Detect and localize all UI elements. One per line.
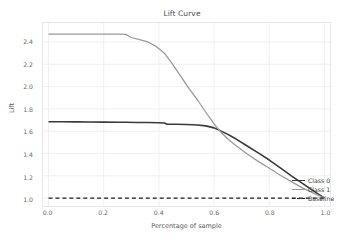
legend-swatch-icon — [292, 180, 305, 181]
series-line-class-0 — [49, 122, 325, 198]
x-axis-tick-labels: 0.00.20.40.60.81.0 — [42, 209, 331, 221]
data-series-layer — [43, 23, 330, 206]
y-tick-label: 1.2 — [23, 173, 33, 180]
legend-item-class-1[interactable]: Class 1 — [292, 185, 362, 194]
legend-label: Class 1 — [308, 185, 330, 194]
y-tick-label: 2.4 — [23, 38, 33, 45]
x-tick-label: 0.4 — [154, 209, 164, 216]
legend-swatch-icon — [292, 198, 305, 199]
legend-label: Baseline — [308, 194, 334, 203]
y-tick-label: 1.8 — [23, 105, 33, 112]
y-tick-label: 1.0 — [23, 196, 33, 203]
legend-swatch-icon — [292, 189, 305, 190]
legend-label: Class 0 — [308, 176, 330, 185]
y-tick-label: 2.2 — [23, 60, 33, 67]
x-tick-label: 0.0 — [43, 209, 53, 216]
x-axis-label: Percentage of sample — [42, 222, 331, 230]
plot-area — [42, 22, 331, 207]
lift-curve-figure: Lift Curve Lift 1.01.21.41.61.82.02.22.4… — [0, 0, 364, 244]
x-tick-label: 0.2 — [98, 209, 108, 216]
y-axis-tick-labels: 1.01.21.41.61.82.02.22.4 — [0, 22, 38, 207]
y-tick-label: 2.0 — [23, 83, 33, 90]
series-line-class-1 — [49, 34, 325, 198]
chart-title: Lift Curve — [0, 9, 364, 18]
y-tick-label: 1.6 — [23, 128, 33, 135]
chart-legend: Class 0Class 1Baseline — [292, 176, 362, 203]
legend-item-class-0[interactable]: Class 0 — [292, 176, 362, 185]
x-tick-label: 0.8 — [265, 209, 275, 216]
x-tick-label: 0.6 — [209, 209, 219, 216]
x-tick-label: 1.0 — [321, 209, 331, 216]
y-tick-label: 1.4 — [23, 150, 33, 157]
legend-item-baseline[interactable]: Baseline — [292, 194, 362, 203]
